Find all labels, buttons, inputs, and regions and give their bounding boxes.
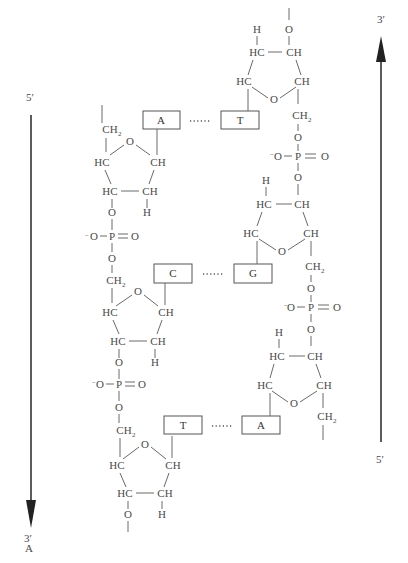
svg-text:CH: CH	[294, 198, 309, 210]
svg-text:O: O	[307, 282, 315, 294]
right-3prime-label: 3′	[377, 13, 385, 25]
svg-text:O: O	[131, 230, 139, 242]
svg-text:CH: CH	[286, 46, 301, 58]
svg-text:HC: HC	[243, 227, 258, 239]
svg-text:A: A	[157, 114, 165, 126]
svg-text:O: O	[321, 150, 329, 162]
svg-text:O: O	[274, 150, 282, 162]
svg-text:CH: CH	[157, 487, 172, 499]
svg-text:HC: HC	[117, 487, 132, 499]
svg-text:CH: CH	[305, 260, 320, 272]
svg-text:O: O	[290, 397, 298, 409]
figure-label: A	[25, 542, 33, 554]
svg-text:C: C	[169, 267, 176, 279]
svg-text:O: O	[270, 93, 278, 105]
svg-text:HC: HC	[102, 185, 117, 197]
svg-text:HC: HC	[102, 306, 117, 318]
svg-text:CH: CH	[292, 109, 307, 121]
left-nucleotide-2: CH 2 O HC CH HC CH H O	[102, 274, 173, 368]
svg-text:G: G	[249, 267, 257, 279]
svg-text:HC: HC	[269, 350, 284, 362]
left-5prime-label: 5′	[26, 91, 34, 103]
svg-text:O: O	[108, 252, 116, 264]
svg-text:O: O	[134, 285, 142, 297]
svg-text:O: O	[294, 171, 302, 183]
svg-text:O: O	[115, 356, 123, 368]
svg-text:−: −	[85, 232, 89, 240]
svg-text:T: T	[180, 419, 187, 431]
svg-text:CH: CH	[316, 379, 331, 391]
svg-text:T: T	[237, 114, 244, 126]
svg-text:CH: CH	[142, 185, 157, 197]
arrowhead-up-icon	[376, 36, 386, 62]
svg-text:H: H	[143, 206, 151, 218]
right-strand-direction: 3′ 5′	[376, 13, 386, 465]
svg-text:O: O	[307, 323, 315, 335]
svg-text:CH: CH	[116, 424, 131, 436]
svg-text:2: 2	[333, 417, 337, 425]
svg-text:HC: HC	[109, 459, 124, 471]
svg-text:O: O	[141, 438, 149, 450]
svg-text:2: 2	[308, 116, 312, 124]
svg-text:CH: CH	[165, 459, 180, 471]
svg-text:H: H	[151, 356, 159, 368]
svg-text:O: O	[287, 301, 295, 313]
svg-text:CH: CH	[317, 410, 332, 422]
svg-text:H: H	[275, 326, 283, 338]
svg-text:P: P	[116, 378, 122, 390]
svg-text:CH: CH	[307, 350, 322, 362]
arrowhead-down-icon	[26, 500, 36, 528]
right-phosphate-1: − O P O O	[270, 144, 329, 195]
svg-text:2: 2	[122, 281, 126, 289]
dna-double-strand-diagram: 5′ 3′ 3′ 5′ A CH 2 O HC CH HC CH H O −	[0, 0, 408, 563]
svg-text:2: 2	[118, 130, 122, 138]
svg-text:P: P	[109, 230, 115, 242]
svg-text:P: P	[308, 301, 314, 313]
svg-text:CH: CH	[102, 123, 117, 135]
svg-text:HC: HC	[256, 198, 271, 210]
svg-text:CH: CH	[106, 274, 121, 286]
left-phosphate-2: − O P O O	[92, 369, 146, 423]
left-nucleotide-3: CH 2 O HC CH HC CH H O	[109, 424, 180, 532]
svg-text:HC: HC	[94, 156, 109, 168]
svg-text:O: O	[333, 301, 341, 313]
svg-text:HC: HC	[236, 75, 251, 87]
left-phosphate-1: − O P O O	[85, 219, 139, 273]
svg-text:O: O	[126, 135, 134, 147]
left-strand-direction: 5′ 3′	[24, 91, 36, 544]
svg-text:P: P	[295, 150, 301, 162]
svg-text:O: O	[294, 131, 302, 143]
svg-text:O: O	[138, 378, 146, 390]
right-phosphate-2: − O P O O	[284, 295, 341, 346]
svg-text:2: 2	[132, 431, 136, 439]
svg-text:CH: CH	[150, 335, 165, 347]
svg-text:HC: HC	[110, 335, 125, 347]
svg-text:O: O	[115, 401, 123, 413]
svg-text:CH: CH	[150, 156, 165, 168]
svg-text:HC: HC	[249, 46, 264, 58]
svg-text:2: 2	[321, 267, 325, 275]
svg-text:O: O	[90, 230, 98, 242]
svg-text:CH: CH	[158, 306, 173, 318]
svg-text:H: H	[262, 174, 270, 186]
svg-text:O: O	[278, 245, 286, 257]
svg-text:H: H	[253, 23, 261, 35]
svg-text:H: H	[158, 508, 166, 520]
svg-text:CH: CH	[303, 227, 318, 239]
svg-text:CH: CH	[294, 75, 309, 87]
svg-text:HC: HC	[257, 379, 272, 391]
svg-text:A: A	[257, 419, 265, 431]
svg-text:O: O	[285, 23, 293, 35]
svg-text:O: O	[108, 206, 116, 218]
base-pair-1: A T	[143, 111, 259, 129]
svg-text:O: O	[96, 378, 104, 390]
svg-text:O: O	[124, 508, 132, 520]
base-pair-2: C G	[154, 264, 272, 283]
base-pair-3: T A	[164, 416, 280, 434]
right-5prime-label: 5′	[376, 453, 384, 465]
